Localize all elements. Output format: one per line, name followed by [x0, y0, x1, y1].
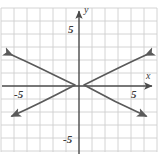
graph-figure: 5 -5 -5 5 x y — [0, 0, 159, 158]
x-tick-label-5: 5 — [131, 89, 137, 100]
y-tick-label-minus-5: -5 — [63, 134, 72, 145]
y-axis-label: y — [84, 5, 88, 15]
x-tick-label-minus-5: -5 — [14, 89, 23, 100]
coordinate-plane-svg — [0, 0, 159, 158]
y-tick-label-5: 5 — [68, 24, 74, 35]
x-axis-label: x — [146, 71, 150, 81]
